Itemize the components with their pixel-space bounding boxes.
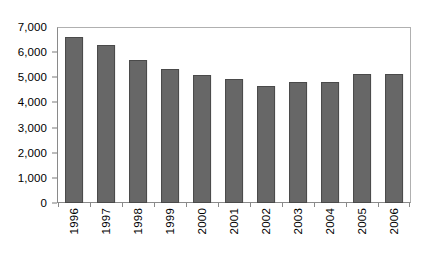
bar <box>385 74 403 203</box>
y-axis-tick-label: 4,000 <box>18 96 47 108</box>
y-axis-tick-label: 6,000 <box>18 46 47 58</box>
x-axis-tick-label: 2006 <box>388 208 400 234</box>
x-axis-tick-label: 2002 <box>260 208 272 234</box>
y-axis-tick-label: 3,000 <box>18 122 47 134</box>
bar <box>193 75 211 203</box>
y-axis-tick-mark <box>52 177 57 178</box>
y-axis-tick-mark <box>52 152 57 153</box>
x-axis-tick-label: 2003 <box>292 208 304 234</box>
bar-slot <box>122 27 154 203</box>
bar <box>225 79 243 203</box>
x-axis-tick-label: 2001 <box>228 208 240 234</box>
x-axis-tick-mark <box>154 203 155 207</box>
bar <box>97 45 115 203</box>
bars-layer <box>58 27 410 203</box>
y-axis-tick-label: 2,000 <box>18 147 47 159</box>
x-axis-tick-label: 2000 <box>196 208 208 234</box>
y-axis-tick-label: 5,000 <box>18 71 47 83</box>
y-axis: 01,0002,0003,0004,0005,0006,0007,000 <box>0 27 52 203</box>
bar-slot <box>378 27 410 203</box>
x-axis-tick-mark <box>58 203 59 207</box>
bar <box>65 37 83 203</box>
x-axis-tick-label: 2005 <box>356 208 368 234</box>
bar-slot <box>314 27 346 203</box>
bar <box>129 60 147 203</box>
x-axis-tick-mark <box>186 203 187 207</box>
x-axis-tick-mark <box>90 203 91 207</box>
bar <box>321 82 339 203</box>
bar-slot <box>250 27 282 203</box>
x-axis-tick-mark <box>378 203 379 207</box>
x-axis-tick-mark <box>218 203 219 207</box>
x-axis-tick-mark <box>346 203 347 207</box>
bar-slot <box>346 27 378 203</box>
x-axis-tick-label: 1999 <box>164 208 176 234</box>
bar-slot <box>154 27 186 203</box>
bar-slot <box>58 27 90 203</box>
bar-chart: 01,0002,0003,0004,0005,0006,0007,000 199… <box>0 0 425 254</box>
bar <box>353 74 371 203</box>
x-axis-tick-mark <box>122 203 123 207</box>
x-axis-tick-mark <box>314 203 315 207</box>
x-axis-tick-mark <box>409 203 410 207</box>
x-axis-tick-label: 2004 <box>324 208 336 234</box>
y-axis-tick-label: 7,000 <box>18 21 47 33</box>
y-axis-tick-mark <box>52 203 57 204</box>
y-axis-tick-mark <box>52 77 57 78</box>
y-axis-tick-mark <box>52 127 57 128</box>
y-axis-tick-label: 1,000 <box>18 172 47 184</box>
bar-slot <box>90 27 122 203</box>
y-axis-tick-mark <box>52 102 57 103</box>
x-axis-tick-mark <box>250 203 251 207</box>
bar-slot <box>282 27 314 203</box>
bar <box>161 69 179 204</box>
x-axis-tick-label: 1997 <box>100 208 112 234</box>
x-axis-tick-label: 1998 <box>132 208 144 234</box>
bar <box>257 86 275 203</box>
y-axis-tick-label: 0 <box>41 197 48 209</box>
bar-slot <box>218 27 250 203</box>
x-axis-tick-label: 1996 <box>68 208 80 234</box>
bar <box>289 82 307 203</box>
x-axis: 1996199719981999200020012002200320042005… <box>58 208 410 252</box>
bar-slot <box>186 27 218 203</box>
y-axis-tick-mark <box>52 52 57 53</box>
x-axis-tick-mark <box>282 203 283 207</box>
